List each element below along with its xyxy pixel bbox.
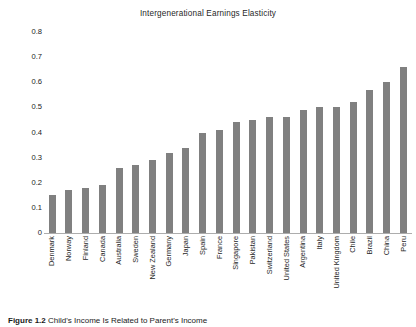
x-axis-label-slot: Finland <box>77 234 94 304</box>
x-axis-label-slot: Peru <box>395 234 412 304</box>
bar-slot <box>295 32 312 233</box>
bar-slot <box>345 32 362 233</box>
x-axis-label-slot: Italy <box>312 234 329 304</box>
x-axis-label-slot: Canada <box>94 234 111 304</box>
y-axis-tick-label: 0.4 <box>2 129 42 137</box>
x-axis-tick-label: Switzerland <box>266 236 273 274</box>
x-axis-label-slot: Chile <box>345 234 362 304</box>
bar-slot <box>312 32 329 233</box>
bar-slot <box>195 32 212 233</box>
bar <box>283 117 290 233</box>
bar <box>233 122 240 233</box>
bar-slot <box>211 32 228 233</box>
bar-slot <box>44 32 61 233</box>
x-axis-label-slot: Switzerland <box>261 234 278 304</box>
x-axis-label-slot: Brazil <box>362 234 379 304</box>
x-axis-tick-label: Finland <box>82 236 89 260</box>
figure-caption: Figure 1.2 Child's Income Is Related to … <box>8 316 207 325</box>
x-axis-tick-label: Spain <box>199 236 206 255</box>
y-axis-tick-label: 0.5 <box>2 104 42 112</box>
bar <box>116 168 123 233</box>
bar-series <box>44 32 412 233</box>
bar <box>166 153 173 233</box>
bar-slot <box>328 32 345 233</box>
x-axis-tick-label: Norway <box>65 236 72 261</box>
x-axis-tick-label: Argentina <box>300 236 307 268</box>
bar <box>49 195 56 233</box>
x-axis-tick-label: Singapore <box>233 236 240 270</box>
bar <box>366 90 373 233</box>
x-axis-label-slot: Norway <box>61 234 78 304</box>
bar-slot <box>278 32 295 233</box>
x-axis-tick-label: Chile <box>350 236 357 253</box>
x-axis-tick-label: United Kingdom <box>333 236 340 289</box>
x-axis-label-slot: Argentina <box>295 234 312 304</box>
bar-slot <box>395 32 412 233</box>
bar-slot <box>245 32 262 233</box>
bar-slot <box>128 32 145 233</box>
bar-slot <box>228 32 245 233</box>
bar-slot <box>144 32 161 233</box>
figure-caption-text: Child's Income Is Related to Parent's In… <box>48 316 207 325</box>
x-axis-tick-label: New Zealand <box>149 236 156 280</box>
y-axis-tick-label: 0.3 <box>2 154 42 162</box>
y-axis-tick-label: 0.6 <box>2 78 42 86</box>
x-axis-tick-label: Italy <box>316 236 323 250</box>
bar-slot <box>77 32 94 233</box>
y-axis-tick-label: 0.7 <box>2 53 42 61</box>
x-axis-label-slot: Pakistan <box>245 234 262 304</box>
bar <box>300 110 307 233</box>
bar <box>99 185 106 233</box>
x-axis-label-slot: China <box>379 234 396 304</box>
x-axis-tick-label: Sweden <box>132 236 139 263</box>
bar <box>132 165 139 233</box>
bar <box>383 82 390 233</box>
bar-slot <box>362 32 379 233</box>
bar <box>216 130 223 233</box>
bar <box>316 107 323 233</box>
x-axis-label-slot: Singapore <box>228 234 245 304</box>
x-axis-tick-label: Denmark <box>49 236 56 266</box>
x-axis-tick-label: Germany <box>166 236 173 266</box>
bar <box>65 190 72 233</box>
x-axis-label-slot: Sweden <box>128 234 145 304</box>
plot-area: DenmarkNorwayFinlandCanadaAustraliaSwede… <box>0 0 416 327</box>
bar-slot <box>178 32 195 233</box>
y-axis-tick-label: 0.1 <box>2 204 42 212</box>
x-axis-label-slot: Germany <box>161 234 178 304</box>
x-axis-labels: DenmarkNorwayFinlandCanadaAustraliaSwede… <box>44 234 412 304</box>
x-axis-tick-label: China <box>383 236 390 255</box>
x-axis-label-slot: United States <box>278 234 295 304</box>
bar-slot <box>94 32 111 233</box>
y-axis-tick-label: 0.8 <box>2 28 42 36</box>
x-axis-tick-label: Pakistan <box>249 236 256 264</box>
bar <box>400 67 407 233</box>
x-axis-tick-label: Brazil <box>366 236 373 254</box>
x-axis-label-slot: New Zealand <box>144 234 161 304</box>
x-axis-label-slot: Denmark <box>44 234 61 304</box>
bar <box>350 102 357 233</box>
y-axis-tick-label: 0 <box>2 229 42 237</box>
bar <box>82 188 89 233</box>
bar-slot <box>61 32 78 233</box>
x-axis-label-slot: France <box>211 234 228 304</box>
bar-slot <box>111 32 128 233</box>
bar <box>266 117 273 233</box>
bar <box>199 133 206 234</box>
y-axis-tick-label: 0.2 <box>2 179 42 187</box>
x-axis-tick-label: United States <box>283 236 290 280</box>
bar-slot <box>379 32 396 233</box>
x-axis-tick-label: Japan <box>182 236 189 256</box>
bar <box>182 148 189 233</box>
x-axis-tick-label: Australia <box>116 236 123 265</box>
bar <box>149 160 156 233</box>
bar-slot <box>161 32 178 233</box>
bar <box>333 107 340 233</box>
bar-slot <box>261 32 278 233</box>
x-axis-tick-label: France <box>216 236 223 259</box>
x-axis-label-slot: Spain <box>195 234 212 304</box>
figure-caption-label: Figure 1.2 <box>8 316 46 325</box>
bar <box>249 120 256 233</box>
x-axis-tick-label: Peru <box>400 236 407 252</box>
x-axis-label-slot: Australia <box>111 234 128 304</box>
